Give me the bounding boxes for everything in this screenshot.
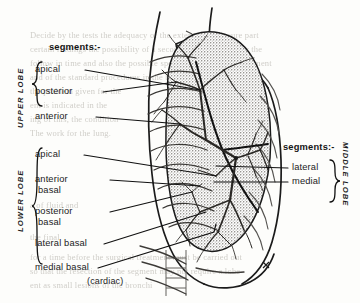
leader-upper-posterior [103, 82, 176, 92]
label-lower-medial-basal-cardiac: (cardiac) [87, 276, 123, 286]
label-upper-apical: apical [35, 64, 60, 74]
label-lower-apical: apical [35, 149, 60, 159]
label-upper-anterior: anterior [35, 111, 68, 121]
label-lower-anterior-basal-2: basal [38, 185, 61, 195]
lower-rib-shadows [140, 246, 244, 294]
label-middle-lateral: lateral [292, 162, 318, 172]
upper-lobe-name: UPPER LOBE [16, 68, 25, 128]
lower-lobe-name: LOWER LOBE [16, 170, 25, 232]
label-lower-lateral-basal: lateral basal [35, 238, 87, 248]
hilum-point [234, 156, 238, 160]
label-middle-medial: medial [292, 176, 320, 186]
label-upper-posterior: posterior [35, 86, 73, 96]
label-lower-posterior-basal: posterior [35, 206, 73, 216]
label-lower-medial-basal: medial basal [35, 262, 89, 272]
label-lower-posterior-basal-2: basal [38, 217, 61, 227]
brace-middle-lobe [330, 160, 340, 202]
label-lower-anterior-basal: anterior [35, 174, 68, 184]
left-segments-header: segments:- [49, 42, 101, 52]
right-segments-header: segments:- [283, 142, 335, 152]
middle-lobe-name: MIDDLE LOBE [341, 142, 350, 206]
